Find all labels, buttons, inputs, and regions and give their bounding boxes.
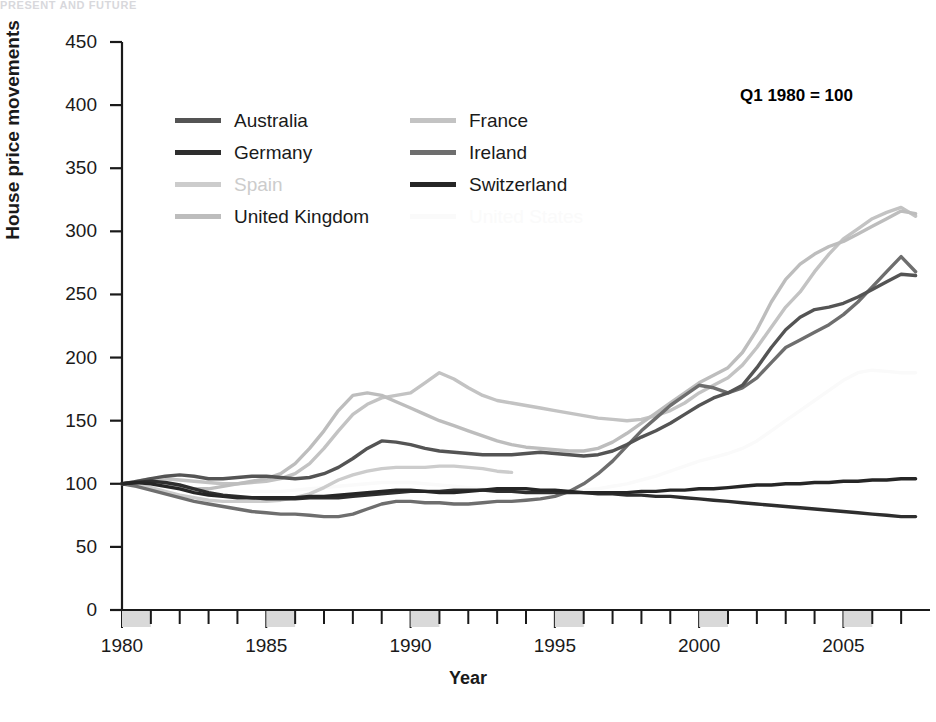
x-tick-label: 2000 [654,636,744,655]
legend-label: Switzerland [469,175,567,194]
series-line-france [122,207,916,483]
legend-item-ireland[interactable]: Ireland [410,143,645,162]
legend-label: Germany [234,143,312,162]
legend-row: GermanyIreland [175,136,645,168]
legend-swatch-icon [175,182,221,187]
y-tick-label: 450 [27,32,97,51]
legend-swatch-icon [410,150,456,155]
series-line-united-states [122,370,916,491]
legend-item-united-states[interactable]: United States [410,207,645,226]
y-tick-label: 250 [27,284,97,303]
legend-swatch-icon [410,118,456,123]
chart-legend: AustraliaFranceGermanyIrelandSpainSwitze… [175,104,645,232]
x-axis-title: Year [0,668,936,689]
legend-swatch-icon [175,150,221,155]
legend-swatch-icon [175,118,221,123]
y-tick-label: 300 [27,221,97,240]
y-tick-label: 350 [27,158,97,177]
legend-label: United Kingdom [234,207,369,226]
legend-item-united-kingdom[interactable]: United Kingdom [175,207,410,226]
x-tick-label: 1990 [366,636,456,655]
y-tick-label: 0 [27,600,97,619]
legend-row: SpainSwitzerland [175,168,645,200]
legend-item-spain[interactable]: Spain [175,175,410,194]
legend-item-france[interactable]: France [410,111,645,130]
x-tick-label: 1980 [77,636,167,655]
series-line-united-kingdom [122,211,916,489]
legend-label: Ireland [469,143,527,162]
legend-swatch-icon [410,214,456,219]
series-line-australia [122,274,916,484]
x-tick-label: 1985 [221,636,311,655]
x-tick-label: 2005 [798,636,888,655]
legend-swatch-icon [410,182,456,187]
house-price-chart: House price movements Year Q1 1980 = 100… [0,0,936,722]
legend-label: France [469,111,528,130]
y-tick-label: 150 [27,411,97,430]
y-tick-label: 100 [27,474,97,493]
legend-label: Australia [234,111,308,130]
legend-item-germany[interactable]: Germany [175,143,410,162]
y-tick-label: 50 [27,537,97,556]
legend-item-australia[interactable]: Australia [175,111,410,130]
y-tick-label: 200 [27,348,97,367]
base-index-annotation: Q1 1980 = 100 [740,86,853,106]
y-tick-label: 400 [27,95,97,114]
legend-label: United States [469,207,583,226]
legend-row: United KingdomUnited States [175,200,645,232]
legend-item-switzerland[interactable]: Switzerland [410,175,645,194]
legend-row: AustraliaFrance [175,104,645,136]
y-axis-title: House price movements [2,10,24,250]
legend-swatch-icon [175,214,221,219]
x-tick-label: 1995 [510,636,600,655]
legend-label: Spain [234,175,283,194]
